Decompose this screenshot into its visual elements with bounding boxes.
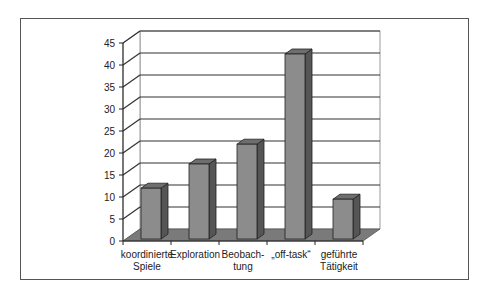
y-tick-label: 30 — [104, 104, 116, 115]
y-tick-label: 35 — [104, 82, 116, 93]
y-tick-label: 20 — [104, 148, 116, 159]
y-tick-label: 25 — [104, 126, 116, 137]
bar-chart: 051015202530354045koordinierteSpieleExpl… — [0, 0, 486, 295]
bar — [333, 199, 353, 239]
bar-side — [161, 183, 168, 239]
x-category-label: „off-task“ — [271, 249, 310, 260]
bar — [189, 164, 209, 239]
y-tick-label: 45 — [104, 38, 116, 49]
bar — [285, 54, 305, 239]
bar-side — [209, 159, 216, 239]
bar-side — [305, 49, 312, 239]
x-category-label: Exploration — [170, 249, 220, 260]
y-tick-label: 15 — [104, 170, 116, 181]
x-category-label: Spiele — [133, 261, 161, 272]
bar-side — [257, 139, 264, 239]
x-category-label: koordinierte — [121, 249, 174, 260]
bar-side — [353, 194, 360, 239]
y-tick-label: 40 — [104, 60, 116, 71]
y-tick-label: 0 — [109, 236, 115, 247]
x-category-label: geführte — [321, 249, 358, 260]
bar — [237, 144, 257, 239]
x-category-label: Tätigkeit — [320, 261, 358, 272]
x-category-label: tung — [233, 261, 252, 272]
y-tick-label: 10 — [104, 192, 116, 203]
x-category-label: Beobach- — [222, 249, 265, 260]
bar — [141, 188, 161, 239]
y-tick-label: 5 — [109, 214, 115, 225]
